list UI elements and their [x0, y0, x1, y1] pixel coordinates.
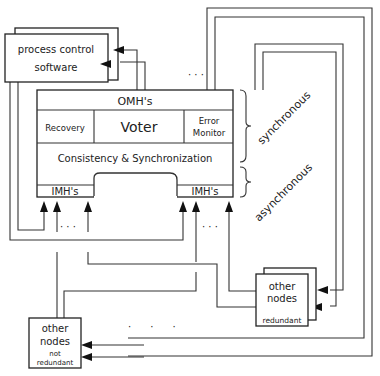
imh-left-ellipsis: · · · — [60, 221, 76, 232]
braces — [240, 90, 251, 197]
process-control-label-2: software — [35, 62, 78, 73]
not-redundant-label-1: other — [42, 323, 70, 334]
imh-right-ellipsis: · · · — [202, 221, 218, 232]
asynchronous-label: asynchronous — [252, 161, 315, 224]
error-monitor-label-1: Error — [199, 116, 220, 126]
not-redundant-tag-1: not — [49, 350, 61, 358]
imh-left-label: IMH's — [51, 186, 78, 197]
not-redundant-label-2: nodes — [40, 336, 70, 347]
voter-label: Voter — [121, 119, 158, 135]
redundant-label-1: other — [269, 281, 297, 292]
recovery-label: Recovery — [45, 123, 84, 133]
other-nodes-redundant-box: other nodes redundant — [256, 268, 316, 326]
redundant-label-2: nodes — [267, 293, 297, 304]
omh-label: OMH's — [117, 95, 152, 108]
diagram-canvas: process control software OMH's R — [0, 0, 380, 376]
other-nodes-not-redundant-box: other nodes not redundant — [29, 318, 81, 368]
process-control-label-1: process control — [18, 44, 94, 55]
error-monitor-label-2: Monitor — [193, 128, 226, 138]
redundant-tag: redundant — [263, 316, 302, 325]
consistency-sync-label: Consistency & Synchronization — [58, 153, 213, 164]
nodes-dots: · · · — [128, 321, 176, 332]
synchronous-label: synchronous — [255, 88, 314, 147]
not-redundant-tag-2: redundant — [37, 359, 74, 367]
core-node-box: OMH's Recovery Voter Error Monitor Consi… — [37, 90, 233, 197]
imh-right-label: IMH's — [191, 186, 218, 197]
process-control-software-box: process control software — [5, 28, 118, 82]
omh-ellipsis: · · · — [188, 69, 204, 80]
